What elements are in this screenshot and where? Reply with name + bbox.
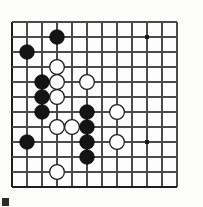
white-c3[interactable]	[50, 60, 65, 75]
grid-lines	[12, 22, 177, 187]
black-e7[interactable]	[80, 120, 95, 135]
black-c1[interactable]	[50, 30, 65, 45]
white-c10[interactable]	[50, 165, 65, 180]
white-g6[interactable]	[110, 105, 125, 120]
black-a8[interactable]	[20, 135, 35, 150]
hoshi-upper-right-icon	[145, 35, 149, 39]
black-b4[interactable]	[35, 75, 50, 90]
white-c7[interactable]	[50, 120, 65, 135]
white-g8[interactable]	[110, 135, 125, 150]
white-c5[interactable]	[50, 90, 65, 105]
go-board-diagram	[0, 0, 203, 207]
black-b6[interactable]	[35, 105, 50, 120]
white-e4[interactable]	[80, 75, 95, 90]
black-e6[interactable]	[80, 105, 95, 120]
go-board-canvas[interactable]	[0, 0, 203, 207]
white-d7[interactable]	[65, 120, 80, 135]
black-e8[interactable]	[80, 135, 95, 150]
page-corner-mark	[2, 198, 9, 206]
black-a2[interactable]	[20, 45, 35, 60]
hoshi-lower-right-icon	[145, 140, 149, 144]
black-e9-ghost[interactable]	[80, 150, 95, 165]
black-b5[interactable]	[35, 90, 50, 105]
white-c4[interactable]	[50, 75, 65, 90]
